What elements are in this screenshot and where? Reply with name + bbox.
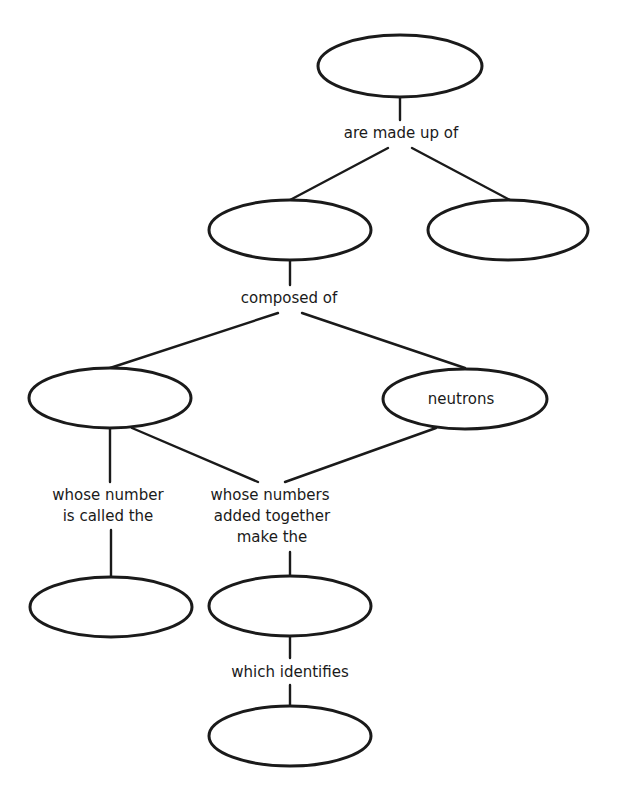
node-neutrons-label: neutrons bbox=[428, 390, 495, 408]
link-label-whose-numbers-line2: added together bbox=[214, 507, 331, 525]
node-last bbox=[209, 706, 371, 766]
link-label-are-made-up-of: are made up of bbox=[344, 124, 459, 142]
connector-to-neutrons bbox=[302, 313, 465, 368]
connector-to-mid-right bbox=[412, 148, 510, 200]
concept-map: neutrons are made up of composed of whos… bbox=[0, 0, 617, 797]
node-left bbox=[29, 368, 191, 428]
node-bottom-left bbox=[30, 577, 192, 637]
connector-to-mid-left bbox=[290, 148, 388, 200]
node-mid-left bbox=[209, 200, 371, 260]
link-label-which-identifies: which identifies bbox=[231, 663, 349, 681]
node-neutrons: neutrons bbox=[383, 369, 547, 429]
connector-to-left bbox=[110, 313, 278, 368]
node-bottom-center bbox=[209, 576, 371, 636]
link-label-whose-numbers-line1: whose numbers bbox=[210, 486, 329, 504]
link-label-composed-of: composed of bbox=[241, 289, 338, 307]
connector-left-diag bbox=[132, 428, 258, 482]
node-mid-right bbox=[428, 200, 588, 260]
connector-neutrons-diag bbox=[285, 428, 436, 482]
link-label-whose-number-line1: whose number bbox=[52, 486, 164, 504]
link-label-whose-numbers-line3: make the bbox=[237, 528, 308, 546]
link-label-whose-number-line2: is called the bbox=[63, 507, 154, 525]
node-top bbox=[318, 35, 482, 97]
